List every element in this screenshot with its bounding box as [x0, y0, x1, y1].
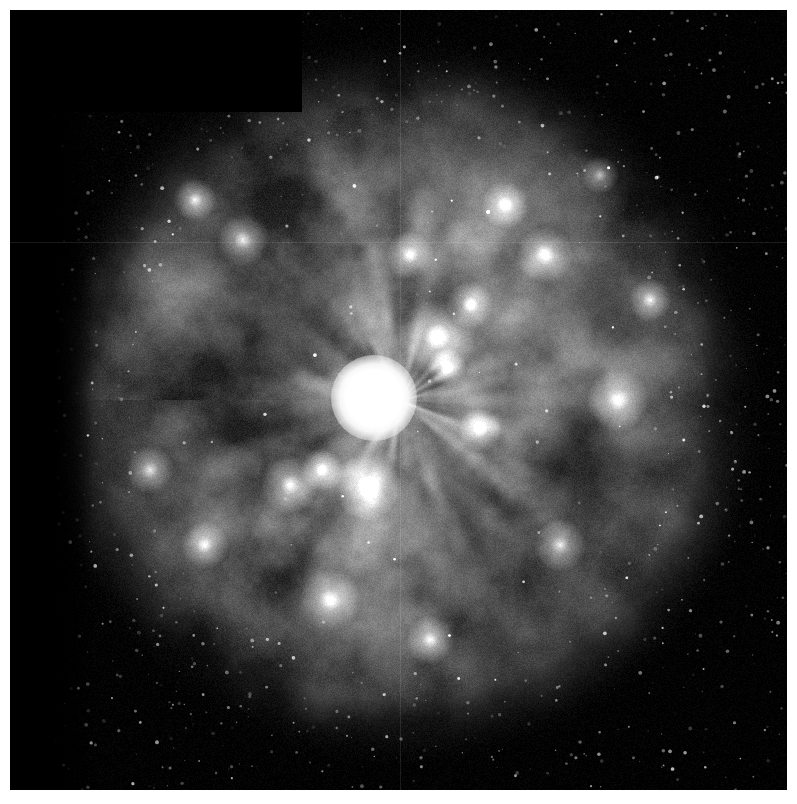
- astronomical-image-plate: [10, 10, 787, 790]
- central-star-saturated-disc: [357, 381, 391, 415]
- nebula-raster-canvas: [10, 10, 787, 790]
- left-margin-chip-gap: [10, 10, 93, 790]
- image-viewer: [0, 0, 797, 804]
